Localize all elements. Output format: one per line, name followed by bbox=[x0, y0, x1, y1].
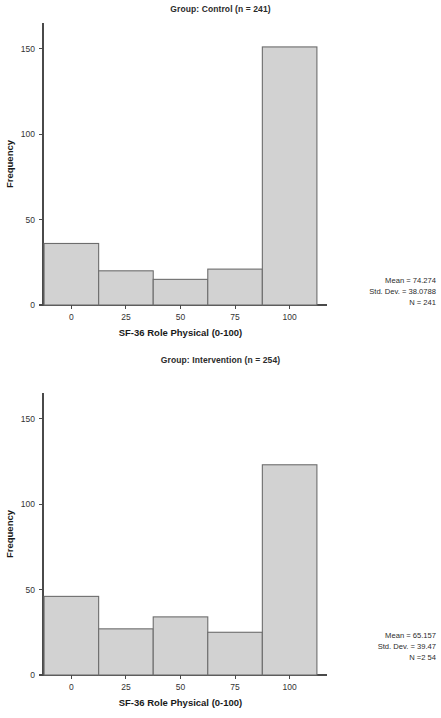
y-tick-label: 0 bbox=[30, 300, 35, 310]
histogram-bar bbox=[208, 632, 263, 675]
stat-mean-control: Mean = 74.274 bbox=[336, 276, 436, 287]
x-axis-title: SF-36 Role Physical (0-100) bbox=[119, 327, 243, 338]
y-axis-title: Frequency bbox=[4, 139, 15, 188]
x-tick-label: 75 bbox=[230, 312, 240, 322]
x-tick-label: 0 bbox=[69, 682, 74, 692]
histogram-chart-intervention: 050100150Frequency0255075100SF-36 Role P… bbox=[0, 359, 441, 718]
x-tick-label: 50 bbox=[176, 312, 186, 322]
histogram-panel-control: Group: Control (n = 241) 050100150Freque… bbox=[0, 0, 441, 359]
histogram-bar bbox=[262, 465, 317, 675]
x-axis-title: SF-36 Role Physical (0-100) bbox=[119, 697, 243, 708]
x-tick-label: 25 bbox=[121, 312, 131, 322]
x-tick-label: 25 bbox=[121, 682, 131, 692]
stats-annotation-control: Mean = 74.274 Std. Dev. = 38.0788 N = 24… bbox=[336, 276, 436, 308]
stat-mean-intervention: Mean = 65.157 bbox=[336, 631, 436, 642]
histogram-bar bbox=[44, 243, 99, 305]
x-tick-label: 100 bbox=[283, 312, 297, 322]
y-tick-label: 150 bbox=[21, 44, 35, 54]
x-tick-label: 0 bbox=[69, 312, 74, 322]
stat-n-control: N = 241 bbox=[336, 298, 436, 309]
y-tick-label: 150 bbox=[21, 414, 35, 424]
stat-stddev-intervention: Std. Dev. = 39.47 bbox=[336, 642, 436, 653]
histogram-bar bbox=[44, 596, 99, 675]
histogram-bar bbox=[99, 271, 154, 305]
histogram-bar bbox=[262, 47, 317, 305]
y-tick-label: 0 bbox=[30, 670, 35, 680]
stats-annotation-intervention: Mean = 65.157 Std. Dev. = 39.47 N =2 54 bbox=[336, 631, 436, 663]
histogram-bar bbox=[153, 617, 208, 675]
y-tick-label: 100 bbox=[21, 129, 35, 139]
histogram-panel-intervention: Group: Intervention (n = 254) 050100150F… bbox=[0, 359, 441, 718]
y-tick-label: 50 bbox=[26, 215, 36, 225]
y-tick-label: 50 bbox=[26, 585, 36, 595]
histogram-bar bbox=[208, 269, 263, 305]
y-tick-label: 100 bbox=[21, 499, 35, 509]
x-tick-label: 75 bbox=[230, 682, 240, 692]
histogram-bar bbox=[153, 279, 208, 305]
x-tick-label: 100 bbox=[283, 682, 297, 692]
histogram-bar bbox=[99, 629, 154, 675]
x-tick-label: 50 bbox=[176, 682, 186, 692]
stat-n-intervention: N =2 54 bbox=[336, 653, 436, 664]
stat-stddev-control: Std. Dev. = 38.0788 bbox=[336, 287, 436, 298]
y-axis-title: Frequency bbox=[4, 509, 15, 558]
